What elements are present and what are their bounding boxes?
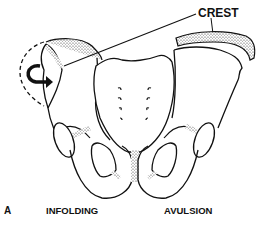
- infolding-caption: INFOLDING: [46, 205, 98, 216]
- panel-letter: A: [4, 205, 11, 216]
- left-acetabulum: [49, 120, 78, 160]
- left-pubis-ischium: [70, 143, 132, 198]
- right-ilium-avulsion: [172, 32, 255, 128]
- pelvis-drawing: [0, 0, 267, 225]
- crest-label: CREST: [198, 6, 239, 20]
- sacrum: [94, 55, 174, 152]
- pelvis-diagram: CREST A INFOLDING AVULSION: [0, 0, 267, 225]
- right-pubis-ischium: [138, 143, 198, 198]
- left-ilium-infolding: [20, 39, 102, 108]
- avulsion-caption: AVULSION: [164, 205, 212, 216]
- right-acetabulum: [189, 120, 218, 160]
